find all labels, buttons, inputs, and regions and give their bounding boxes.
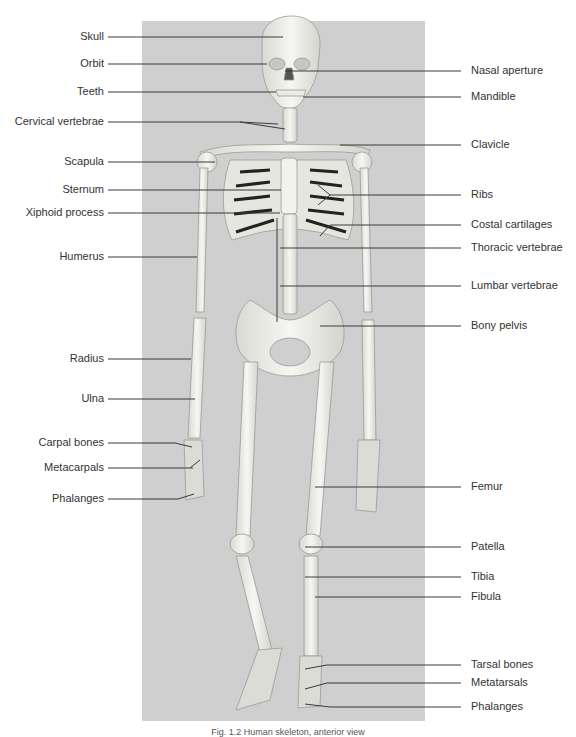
femur-left [236, 362, 258, 536]
femur-right [306, 362, 334, 536]
label-tarsal-bones: Tarsal bones [471, 658, 533, 671]
label-radius: Radius [0, 352, 104, 365]
label-xiphoid-process: Xiphoid process [0, 206, 104, 219]
knee-right [299, 534, 323, 554]
label-patella: Patella [471, 540, 505, 553]
label-cervical-vertebrae: Cervical vertebrae [0, 115, 104, 128]
label-thoracic-vertebrae: Thoracic vertebrae [471, 241, 563, 254]
humerus-right [360, 168, 372, 312]
label-lumbar-vertebrae: Lumbar vertebrae [471, 279, 558, 292]
pelvic-inlet [270, 338, 310, 366]
label-humerus: Humerus [0, 250, 104, 263]
radius-ulna-left [188, 318, 206, 438]
label-orbit: Orbit [0, 57, 104, 70]
label-scapula: Scapula [0, 155, 104, 168]
teeth [276, 90, 306, 96]
thoracic-lumbar-spine [283, 214, 297, 314]
clavicles [200, 144, 370, 158]
label-hand-phalanges: Phalanges [0, 492, 104, 505]
label-metacarpals: Metacarpals [0, 461, 104, 474]
label-metatarsals: Metatarsals [471, 676, 528, 689]
hand-left [184, 440, 204, 500]
label-femur: Femur [471, 480, 503, 493]
label-costal-cartilages: Costal cartilages [471, 218, 552, 231]
label-carpal-bones: Carpal bones [0, 436, 104, 449]
label-nasal-aperture: Nasal aperture [471, 64, 543, 77]
tibia-fibula-right [304, 556, 318, 656]
skeleton-figure: Skull Orbit Teeth Cervical vertebrae Sca… [0, 0, 576, 737]
label-foot-phalanges: Phalanges [471, 700, 523, 713]
skeleton [184, 16, 380, 710]
tibia-fibula-left [236, 556, 272, 652]
label-fibula: Fibula [471, 590, 501, 603]
label-bony-pelvis: Bony pelvis [471, 319, 527, 332]
orbit-left [269, 58, 285, 70]
label-tibia: Tibia [471, 570, 494, 583]
cervical-spine [283, 108, 297, 142]
foot-left [236, 648, 282, 710]
label-teeth: Teeth [0, 85, 104, 98]
hand-right [356, 440, 380, 512]
skeleton-illustration [0, 0, 576, 737]
figure-caption: Fig. 1.2 Human skeleton, anterior view [0, 727, 576, 737]
label-ribs: Ribs [471, 188, 493, 201]
nasal-aperture [284, 68, 294, 80]
label-clavicle: Clavicle [471, 138, 510, 151]
sternum [281, 158, 297, 214]
label-sternum: Sternum [0, 183, 104, 196]
orbit-right [294, 58, 310, 70]
label-ulna: Ulna [0, 392, 104, 405]
label-skull: Skull [0, 30, 104, 43]
knee-left [230, 534, 254, 554]
label-mandible: Mandible [471, 90, 516, 103]
radius-ulna-right [362, 320, 376, 440]
foot-right [298, 656, 322, 708]
